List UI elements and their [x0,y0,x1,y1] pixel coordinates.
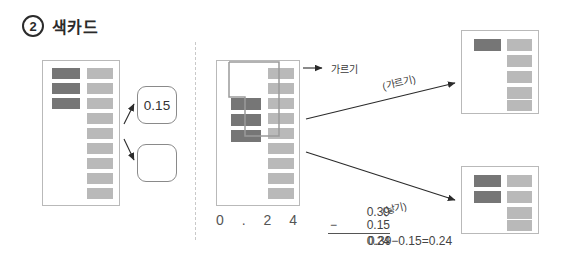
card-bar-dark [52,83,80,94]
card-bar-dark [474,175,501,187]
arrow-to-result-top [306,83,455,119]
card-bar-light [87,188,113,199]
card-bar-light [268,83,294,94]
card-bar-light [507,175,532,187]
result-card-top [461,30,539,114]
card-bar-light [268,98,294,109]
card-bar-light [87,83,113,94]
card-bar-light [268,68,294,79]
place-value-digits: 0 . 2 4 [216,212,304,228]
card-bar-light [87,173,113,184]
answer-box-value: 0.15 [144,98,170,113]
card-bar-light [507,207,532,219]
card-bar-light [268,128,294,139]
card-bar-dark [52,68,80,79]
card-bar-light [268,158,294,169]
card-bar-light [87,128,113,139]
card-bar-light [268,113,294,124]
card-bar-light [268,143,294,154]
source-color-card [42,60,120,206]
answer-box-filled[interactable]: 0.15 [137,86,177,124]
arrow-to-answer-filled [124,104,134,124]
card-bar-light [507,39,532,51]
card-bar-dark [231,98,261,110]
arrow-to-result-bottom [306,152,455,200]
card-bar-dark [231,114,261,126]
card-bar-light [507,220,532,231]
result-card-bottom [461,166,539,234]
card-bar-light [507,55,532,67]
card-bar-light [87,143,113,154]
selection-label: 가르기 [331,61,358,76]
card-bar-light [507,71,532,83]
page-header: 2 색카드 [22,14,98,38]
minus-sign: − [330,219,337,232]
card-bar-light [87,98,113,109]
card-bar-dark [474,39,501,51]
split-color-card [216,60,300,206]
card-bar-light [87,158,113,169]
card-bar-light [87,113,113,124]
page-title: 색카드 [52,14,98,38]
card-bar-light [87,68,113,79]
step-number-badge: 2 [22,15,44,37]
arrow-label-upper: (가르기) [381,71,417,93]
answer-box-empty[interactable] [137,144,177,182]
card-bar-dark [231,130,261,142]
card-bar-light [507,87,532,99]
card-bar-light [507,100,532,111]
card-bar-light [268,188,294,199]
worksheet-page: 2 색카드 0.15 [0,0,563,269]
horizontal-equation: 0.39−0.15=0.24 [368,234,452,248]
subtraction-subtrahend-row: − 0.15 [328,219,390,232]
card-bar-light [507,191,532,203]
card-bar-light [268,173,294,184]
arrow-to-answer-empty [124,139,134,160]
card-bar-dark [52,98,80,109]
subtraction-subtrahend: 0.15 [367,218,390,232]
card-bar-dark [474,191,501,203]
vertical-dashed-divider [195,42,196,240]
